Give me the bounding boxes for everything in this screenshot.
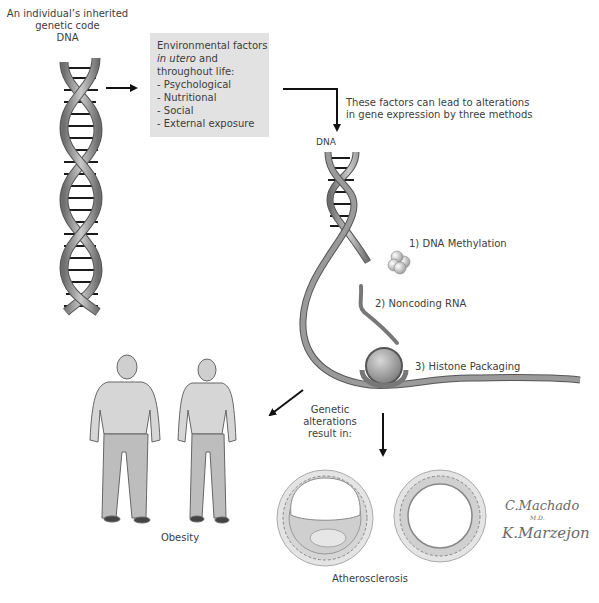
dna-helix-left: [64, 58, 100, 312]
factors-note: These factors can lead to alterations in…: [346, 97, 533, 121]
signature-machado: C.Machado: [505, 498, 579, 513]
environmental-factors-box: Environmental factors in utero and throu…: [150, 33, 269, 137]
in-utero-text: in utero: [157, 53, 196, 64]
caption-line: An individual’s inherited: [0, 8, 135, 20]
obesity-label: Obesity: [140, 532, 220, 544]
arrow-elbow-down: [283, 89, 337, 130]
atherosclerosis-label: Atherosclerosis: [320, 573, 420, 585]
and-text: and: [196, 53, 218, 64]
dna-label: DNA: [316, 136, 336, 148]
result-line: result in:: [300, 428, 360, 440]
artery-diseased: [277, 470, 373, 566]
factor-item: - External exposure: [157, 117, 263, 130]
artery-healthy: [394, 470, 486, 562]
box-title: Environmental factors: [157, 39, 263, 52]
arrow-to-obesity: [270, 390, 303, 415]
result-line: Genetic: [300, 404, 360, 416]
result-line: alterations: [300, 416, 360, 428]
dna-helix-right: [303, 152, 580, 386]
note-line: These factors can lead to alterations: [346, 97, 533, 109]
noncoding-rna-strand: [361, 286, 397, 343]
person-figure-slim: [178, 359, 236, 523]
histone-icon: [366, 348, 402, 384]
inherited-dna-caption: An individual’s inherited genetic code D…: [0, 8, 135, 44]
method-histone-packaging: 3) Histone Packaging: [415, 361, 520, 373]
person-figure-obese: [90, 355, 160, 523]
factor-item: - Nutritional: [157, 91, 263, 104]
box-title-2: in utero and: [157, 52, 263, 65]
signature-marzejon: K.Marzejon: [502, 524, 590, 542]
methyl-group-icon: [388, 251, 410, 274]
result-note: Genetic alterations result in:: [300, 404, 360, 440]
note-line: in gene expression by three methods: [346, 109, 533, 121]
signature-md: M.D.: [530, 514, 545, 521]
box-title-3: throughout life:: [157, 65, 263, 78]
method-noncoding-rna: 2) Noncoding RNA: [375, 298, 466, 310]
factor-item: - Psychological: [157, 78, 263, 91]
factor-item: - Social: [157, 104, 263, 117]
method-dna-methylation: 1) DNA Methylation: [409, 238, 507, 250]
caption-line: DNA: [0, 32, 135, 44]
caption-line: genetic code: [0, 20, 135, 32]
